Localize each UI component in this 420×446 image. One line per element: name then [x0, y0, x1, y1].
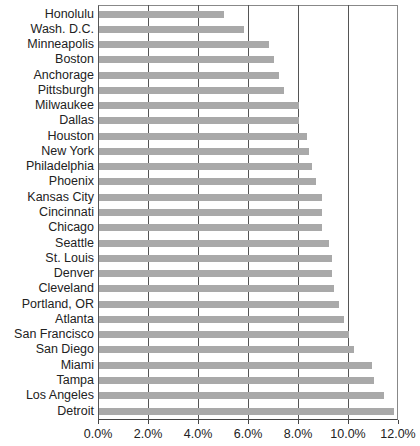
bar — [99, 56, 274, 63]
category-label: Atlanta — [55, 312, 94, 327]
bar — [99, 133, 307, 140]
bar — [99, 346, 354, 353]
x-tick-label: 2.0% — [123, 427, 173, 441]
tick-mark — [198, 420, 199, 424]
bar — [99, 148, 309, 155]
category-label: Anchorage — [34, 68, 94, 83]
category-label: Miami — [61, 358, 94, 373]
category-label: Pittsburgh — [38, 83, 94, 98]
bar — [99, 301, 339, 308]
category-label: Chicago — [48, 220, 94, 235]
x-tick-label: 8.0% — [273, 427, 323, 441]
bar — [99, 408, 394, 415]
category-label: Kansas City — [27, 190, 94, 205]
tick-mark — [148, 420, 149, 424]
category-label: Los Angeles — [26, 388, 94, 403]
bar — [99, 331, 349, 338]
bar — [99, 87, 284, 94]
tick-mark — [248, 420, 249, 424]
bar — [99, 41, 269, 48]
bar — [99, 270, 332, 277]
category-label: St. Louis — [45, 251, 94, 266]
gridline — [348, 5, 349, 420]
category-label: Denver — [54, 266, 94, 281]
bar — [99, 392, 384, 399]
category-label: Cincinnati — [39, 205, 94, 220]
bar-chart: HonoluluWash. D.C.MinneapolisBostonAncho… — [0, 0, 420, 446]
category-label: San Diego — [36, 342, 94, 357]
x-tick-label: 6.0% — [223, 427, 273, 441]
bar — [99, 102, 299, 109]
category-label: Seattle — [55, 236, 94, 251]
category-label: Dallas — [59, 113, 94, 128]
bar — [99, 224, 322, 231]
bar — [99, 194, 322, 201]
category-label: Portland, OR — [22, 297, 94, 312]
bar — [99, 316, 344, 323]
tick-mark — [298, 420, 299, 424]
bar — [99, 285, 334, 292]
bar — [99, 11, 224, 18]
category-label: Cleveland — [38, 281, 94, 296]
category-label: Philadelphia — [26, 159, 94, 174]
bar — [99, 209, 322, 216]
bar — [99, 72, 279, 79]
category-label: Wash. D.C. — [31, 22, 94, 37]
bar — [99, 26, 244, 33]
x-tick-label: 10.0% — [323, 427, 373, 441]
bar — [99, 240, 329, 247]
bar — [99, 362, 372, 369]
category-label: San Francisco — [14, 327, 94, 342]
tick-mark — [348, 420, 349, 424]
category-label: New York — [41, 144, 94, 159]
category-label: Phoenix — [49, 174, 94, 189]
category-label: Houston — [47, 129, 94, 144]
category-label: Tampa — [56, 373, 94, 388]
bar — [99, 163, 312, 170]
x-tick-label: 0.0% — [73, 427, 123, 441]
category-label: Detroit — [57, 404, 94, 419]
bar — [99, 255, 332, 262]
bar — [99, 178, 316, 185]
category-label: Boston — [55, 52, 94, 67]
bar — [99, 377, 374, 384]
x-tick-label: 12.0% — [373, 427, 420, 441]
tick-mark — [98, 420, 99, 424]
category-label: Minneapolis — [27, 37, 94, 52]
bar — [99, 117, 299, 124]
category-label: Milwaukee — [35, 98, 94, 113]
x-tick-label: 4.0% — [173, 427, 223, 441]
category-label: Honolulu — [45, 7, 94, 22]
tick-mark — [398, 420, 399, 424]
